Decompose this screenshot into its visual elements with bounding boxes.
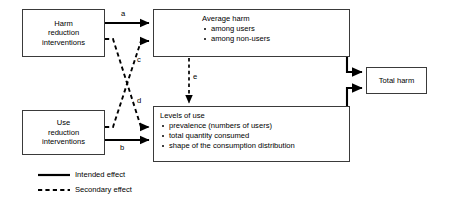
use-reduction-line-2: reduction bbox=[48, 128, 79, 138]
use-reduction-line-3: interventions bbox=[42, 137, 85, 147]
edge-label-e: e bbox=[193, 72, 197, 81]
node-levels-of-use[interactable]: Levels of use prevalence (numbers of use… bbox=[153, 106, 350, 162]
node-use-reduction-interventions[interactable]: Use reduction interventions bbox=[22, 110, 105, 155]
use-reduction-line-1: Use bbox=[57, 118, 71, 128]
edge-label-b: b bbox=[120, 143, 124, 152]
harm-reduction-line-3: interventions bbox=[42, 38, 85, 48]
edge-label-c: c bbox=[137, 55, 141, 64]
harm-reduction-line-1: Harm bbox=[54, 19, 73, 29]
node-average-harm[interactable]: Average harm among users among non-users bbox=[153, 9, 350, 57]
average-harm-title: Average harm bbox=[202, 14, 270, 24]
edge-c bbox=[105, 41, 149, 127]
legend-label-intended-effect: Intended effect bbox=[75, 170, 125, 179]
harm-reduction-line-2: reduction bbox=[48, 28, 79, 38]
edge-average-harm-to-total-harm bbox=[347, 57, 362, 72]
average-harm-bullet-1: among users bbox=[202, 24, 270, 34]
total-harm-title: Total harm bbox=[379, 76, 414, 86]
edge-levels-of-use-to-total-harm bbox=[347, 88, 362, 107]
levels-of-use-bullet-3: shape of the consumption distribution bbox=[160, 141, 295, 151]
levels-of-use-bullet-2: total quantity consumed bbox=[160, 131, 295, 141]
edge-label-a: a bbox=[121, 9, 125, 18]
node-total-harm[interactable]: Total harm bbox=[366, 67, 427, 94]
average-harm-bullets: among users among non-users bbox=[202, 24, 270, 44]
legend-label-secondary-effect: Secondary effect bbox=[75, 185, 132, 194]
edge-label-d: d bbox=[137, 96, 141, 105]
node-harm-reduction-interventions[interactable]: Harm reduction interventions bbox=[22, 9, 105, 57]
average-harm-bullet-2: among non-users bbox=[202, 34, 270, 44]
diagram-canvas: Harm reduction interventions Use reducti… bbox=[0, 0, 451, 202]
levels-of-use-title: Levels of use bbox=[160, 111, 295, 121]
levels-of-use-bullets: prevalence (numbers of users) total quan… bbox=[160, 121, 295, 151]
levels-of-use-bullet-1: prevalence (numbers of users) bbox=[160, 121, 295, 131]
